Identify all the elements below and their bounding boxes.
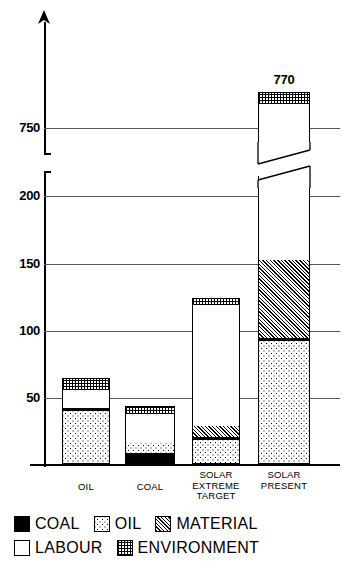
bar-coal-segment-labour <box>125 414 175 443</box>
bar-solar-present-segment-environment <box>258 92 310 104</box>
bar-chart: 750 200 150 100 50 <box>0 0 345 571</box>
legend-label-coal: COAL <box>35 515 80 533</box>
legend-row-2: LABOUR ENVIRONMENT <box>14 536 334 560</box>
x-axis-label-solar-extreme-target-line3: TARGET <box>186 491 246 502</box>
x-axis-label-solar-present-line1: SOLAR <box>254 470 314 481</box>
bar-solar-extreme-target-segment-environment <box>192 298 240 305</box>
y-tick-label-150: 150 <box>0 256 40 271</box>
y-tick-label-100: 100 <box>0 323 40 338</box>
x-axis-baseline <box>30 464 340 466</box>
y-tick-label-750: 750 <box>0 120 40 135</box>
bar-oil-segment-oil <box>62 411 110 464</box>
x-axis-label-solar-present: SOLAR PRESENT <box>254 470 314 491</box>
legend-label-environment: ENVIRONMENT <box>138 539 260 557</box>
y-tick-label-50: 50 <box>0 390 40 405</box>
bar-coal-segment-oil <box>125 443 175 453</box>
legend-swatch-environment-icon <box>117 540 133 556</box>
y-axis-upper-segment <box>44 22 46 155</box>
x-axis-label-oil: OIL <box>56 482 116 493</box>
chart-legend: COAL OIL MATERIAL LABOUR ENVIRONMENT <box>14 512 334 560</box>
y-axis-lower-segment <box>44 171 46 467</box>
legend-swatch-labour-icon <box>14 540 30 556</box>
legend-row-1: COAL OIL MATERIAL <box>14 512 334 536</box>
bar-coal[interactable] <box>125 406 175 464</box>
x-axis-label-solar-extreme-target: SOLAR EXTREME TARGET <box>186 470 246 502</box>
bar-solar-extreme-target[interactable] <box>192 298 240 464</box>
legend-item-labour[interactable]: LABOUR <box>14 539 103 557</box>
bar-solar-present-break-upper-edge <box>256 142 312 168</box>
legend-item-oil[interactable]: OIL <box>94 515 142 533</box>
legend-item-coal[interactable]: COAL <box>14 515 80 533</box>
x-axis-label-coal: COAL <box>120 482 180 493</box>
legend-swatch-material-icon <box>155 516 171 532</box>
x-axis-label-solar-extreme-target-line1: SOLAR <box>186 470 246 481</box>
legend-label-oil: OIL <box>115 515 142 533</box>
legend-swatch-coal-icon <box>14 516 30 532</box>
bar-oil[interactable] <box>62 378 110 464</box>
bar-oil-segment-labour <box>62 390 110 408</box>
legend-swatch-oil-icon <box>94 516 110 532</box>
bar-solar-extreme-target-segment-labour <box>192 305 240 426</box>
bar-solar-present-segment-oil <box>258 341 310 464</box>
legend-label-material: MATERIAL <box>176 515 257 533</box>
bar-solar-present-value-label: 770 <box>256 72 312 87</box>
legend-item-material[interactable]: MATERIAL <box>155 515 257 533</box>
bar-solar-present-lower[interactable] <box>258 176 310 464</box>
bar-coal-segment-coal <box>125 453 175 464</box>
legend-item-environment[interactable]: ENVIRONMENT <box>117 539 260 557</box>
bar-coal-segment-environment <box>125 406 175 414</box>
legend-label-labour: LABOUR <box>35 539 103 557</box>
bar-oil-segment-environment <box>62 378 110 390</box>
bar-solar-present-segment-labour <box>258 176 310 260</box>
x-axis-label-solar-present-line2: PRESENT <box>254 481 314 492</box>
bar-solar-present-segment-material <box>258 260 310 338</box>
y-tick-label-200: 200 <box>0 188 40 203</box>
y-axis-upper-break-foot <box>44 153 51 155</box>
bar-solar-extreme-target-segment-oil <box>192 440 240 464</box>
y-axis-arrow-icon <box>37 10 55 30</box>
bar-solar-extreme-target-segment-material <box>192 426 240 437</box>
